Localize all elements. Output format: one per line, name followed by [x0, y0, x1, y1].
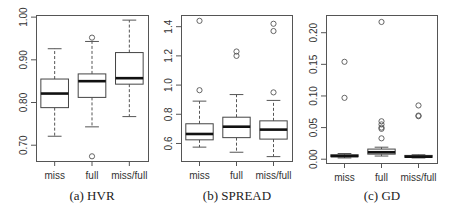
- outlier-point: [89, 35, 94, 40]
- x-tick-label: miss/full: [111, 170, 147, 181]
- x-tick-label: miss: [44, 170, 65, 181]
- x-tick-label: miss: [334, 172, 355, 183]
- outlier-point: [342, 59, 347, 64]
- box-miss-full: [116, 20, 144, 116]
- y-tick-label: 0.8: [163, 107, 174, 121]
- x-tick-label: miss: [189, 170, 210, 181]
- box-miss: [331, 59, 358, 158]
- x-tick-label: miss/full: [255, 170, 291, 181]
- box-miss: [41, 49, 69, 137]
- outlier-point: [379, 136, 384, 141]
- outlier-point: [342, 95, 347, 100]
- x-tick-label: full: [375, 172, 388, 183]
- y-tick-label: 0.20: [308, 23, 319, 43]
- caption-hvr: (a) HVR: [69, 188, 114, 203]
- outlier-point: [197, 88, 202, 93]
- outlier-point: [379, 19, 384, 24]
- y-tick-label: 1.2: [163, 48, 174, 62]
- y-tick-label: 0.70: [18, 135, 29, 155]
- box-full: [223, 49, 250, 152]
- boxplot-figure: 0.700.800.901.00missfullmiss/full (a) HV…: [0, 0, 452, 210]
- y-tick-label: 0.80: [18, 92, 29, 112]
- outlier-point: [271, 90, 276, 95]
- outlier-point: [197, 18, 202, 23]
- x-tick-label: full: [86, 170, 99, 181]
- iqr-box: [78, 74, 106, 97]
- y-tick-label: 1.0: [163, 78, 174, 92]
- y-tick-label: 1.00: [18, 7, 29, 27]
- y-tick-label: 1.4: [163, 19, 174, 33]
- box-full: [368, 19, 395, 156]
- outlier-point: [89, 154, 94, 159]
- caption-spread: (b) SPREAD: [203, 188, 271, 203]
- caption-gd: (c) GD: [364, 188, 400, 203]
- panel-spread: 0.60.81.01.21.4missfullmiss/full: [163, 16, 293, 182]
- y-tick-label: 0.15: [308, 54, 319, 74]
- y-tick-label: 0.10: [308, 86, 319, 106]
- y-tick-label: 0.00: [308, 149, 319, 169]
- outlier-point: [416, 103, 421, 108]
- y-tick-label: 0.05: [308, 117, 319, 137]
- outlier-point: [271, 28, 276, 33]
- iqr-box: [186, 124, 213, 140]
- y-tick-label: 0.6: [163, 136, 174, 150]
- outlier-point: [271, 21, 276, 26]
- box-miss-full: [405, 103, 432, 158]
- panel-hvr: 0.700.800.901.00missfullmiss/full: [18, 7, 149, 181]
- panel-gd: 0.000.050.100.150.20missfullmiss/full: [308, 16, 438, 184]
- box-miss: [186, 18, 213, 147]
- box-full: [78, 35, 106, 159]
- box-miss-full: [260, 21, 287, 156]
- y-tick-label: 0.90: [18, 50, 29, 70]
- x-tick-label: miss/full: [400, 172, 436, 183]
- x-tick-label: full: [230, 170, 243, 181]
